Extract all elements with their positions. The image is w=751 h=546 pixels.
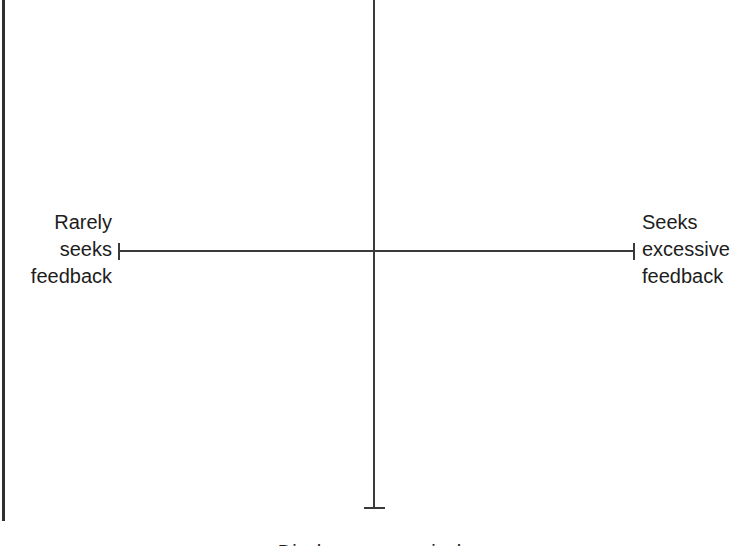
diagram-canvas: Rarely seeks feedback Seeks excessive fe… xyxy=(0,0,751,546)
vertical-axis-bottom-label-wrap: Discloses excessively xyxy=(0,512,751,546)
vertical-axis-line xyxy=(373,0,375,509)
horizontal-axis-right-label: Seeks excessive feedback xyxy=(642,209,730,290)
horizontal-axis-line xyxy=(118,250,635,252)
horizontal-axis-right-tick xyxy=(633,243,635,260)
horizontal-axis-left-tick xyxy=(118,243,120,260)
scan-edge-artifact xyxy=(2,0,5,521)
horizontal-axis-left-label: Rarely seeks feedback xyxy=(31,209,112,290)
vertical-axis-bottom-label: Discloses excessively xyxy=(278,539,471,546)
vertical-axis-bottom-tick xyxy=(364,507,385,509)
